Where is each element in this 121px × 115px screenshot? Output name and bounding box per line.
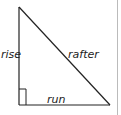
rise-label: rise bbox=[1, 49, 21, 60]
rafter-label: rafter bbox=[68, 49, 99, 60]
run-label: run bbox=[47, 94, 65, 105]
rafter-diagram: rise rafter run bbox=[0, 0, 121, 115]
right-angle-marker bbox=[19, 89, 26, 105]
